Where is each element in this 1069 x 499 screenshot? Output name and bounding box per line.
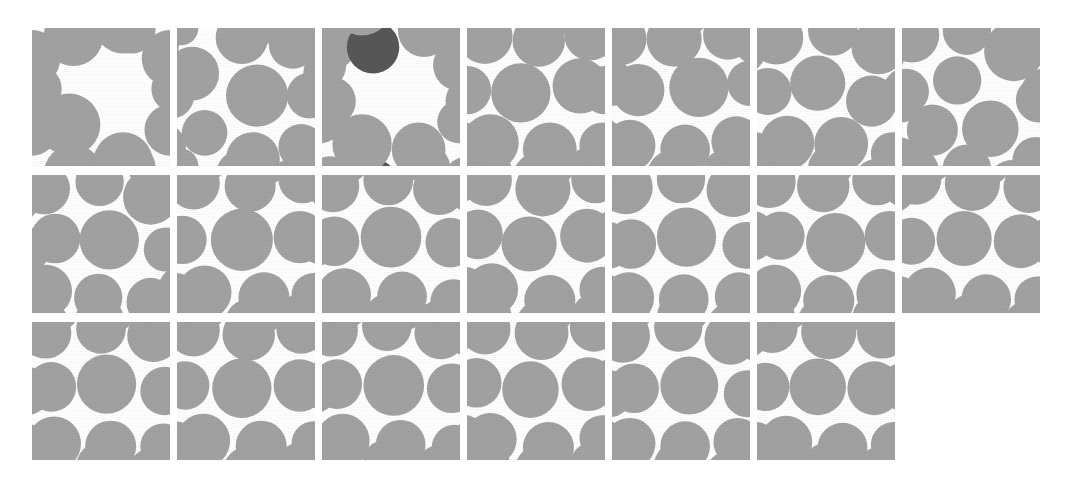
disk	[994, 214, 1040, 268]
disk	[376, 420, 426, 460]
disk	[140, 423, 170, 460]
disk	[93, 132, 152, 166]
disk	[292, 273, 315, 313]
disk	[80, 210, 139, 269]
disk	[660, 357, 718, 415]
disk	[182, 110, 228, 156]
packing-cell	[757, 28, 895, 166]
packing-cell	[322, 28, 460, 166]
disk	[524, 275, 575, 313]
disk	[933, 56, 981, 104]
packing-cell	[612, 175, 750, 313]
disk	[1016, 77, 1040, 123]
disk	[722, 222, 750, 269]
disk	[274, 211, 315, 263]
disk	[846, 76, 895, 127]
disk	[806, 213, 865, 272]
disk	[847, 361, 895, 415]
disk	[803, 275, 854, 313]
disk	[1014, 276, 1040, 313]
disk	[467, 66, 491, 114]
disk	[871, 132, 895, 166]
packing-cell	[902, 175, 1040, 313]
disk	[562, 357, 605, 411]
packing-cell	[612, 28, 750, 166]
packing-cell	[177, 322, 315, 460]
disk	[427, 363, 460, 413]
disk	[361, 207, 422, 268]
disk	[612, 28, 647, 65]
disk	[871, 422, 895, 460]
packing-cell	[902, 28, 1040, 166]
disk	[377, 272, 427, 313]
packing-cell	[757, 175, 895, 313]
disk	[177, 28, 198, 45]
disk	[856, 269, 895, 313]
disk	[32, 265, 72, 313]
disk	[127, 278, 170, 313]
highlighted-disk	[347, 28, 399, 74]
disk	[432, 425, 460, 460]
packing-cell	[32, 28, 170, 166]
disk	[669, 58, 728, 117]
disk	[937, 211, 992, 266]
disk	[790, 56, 845, 111]
packing-cell	[467, 175, 605, 313]
disk	[659, 274, 709, 313]
disk	[211, 209, 273, 271]
disk	[74, 274, 122, 313]
disk	[77, 354, 136, 413]
packing-cell	[32, 175, 170, 313]
disk	[144, 227, 170, 271]
disk	[212, 359, 271, 418]
disk	[392, 123, 446, 166]
disk	[523, 422, 574, 460]
disk	[553, 58, 605, 113]
disk	[502, 216, 557, 271]
disk	[660, 125, 710, 166]
disk	[865, 211, 895, 261]
packing-cell	[467, 28, 605, 166]
packing-cell	[757, 322, 895, 460]
disk	[226, 65, 288, 127]
packing-cell	[612, 322, 750, 460]
packing-cell	[32, 322, 170, 460]
disk	[363, 355, 424, 416]
disk	[292, 421, 315, 460]
packing-cell	[322, 175, 460, 313]
disk	[278, 175, 315, 203]
packing-cell	[322, 322, 460, 460]
disk	[660, 421, 710, 460]
disk	[704, 322, 750, 365]
disk	[570, 322, 605, 352]
disk	[818, 423, 868, 460]
disk	[757, 68, 792, 115]
disk	[962, 100, 1019, 157]
packing-cell	[177, 175, 315, 313]
disk	[727, 60, 750, 106]
disk	[713, 418, 750, 460]
disk	[502, 361, 559, 418]
packing-cell	[177, 28, 315, 166]
disk	[564, 28, 605, 60]
disk	[426, 218, 461, 268]
disk	[657, 207, 716, 266]
disk	[571, 175, 605, 203]
disk	[491, 63, 550, 122]
disk	[560, 209, 605, 263]
disk	[238, 272, 289, 313]
disk	[226, 132, 280, 166]
packing-figure	[0, 0, 1069, 499]
disk	[1012, 137, 1040, 166]
disk	[724, 370, 750, 417]
disk	[852, 175, 895, 205]
disk	[85, 421, 136, 460]
disk	[789, 359, 846, 416]
disk	[523, 123, 577, 166]
disk	[430, 279, 460, 313]
disk	[961, 274, 1011, 313]
disk	[140, 367, 170, 415]
disk	[943, 28, 991, 55]
disk	[274, 359, 315, 411]
disk	[715, 272, 750, 313]
